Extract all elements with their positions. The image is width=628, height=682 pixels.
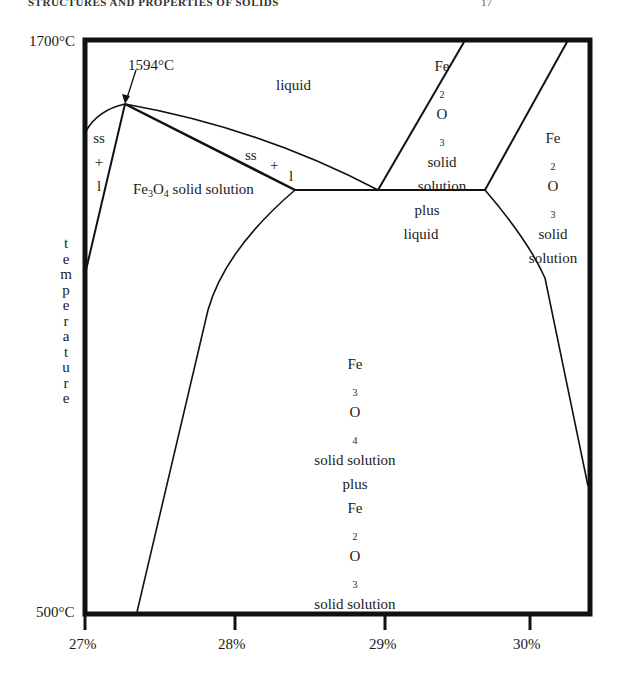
y-axis-title: te mp er at ur e <box>59 236 73 407</box>
x-tick-label-29: 29% <box>369 637 397 652</box>
y-axis-bottom-label: 500°C <box>36 605 75 620</box>
region-ss-plus-l-left: ss+l <box>91 126 107 198</box>
y-axis-top-label: 1700°C <box>29 34 75 49</box>
region-ss-label-mid: ss <box>245 148 257 163</box>
region-fe3o4-solid-solution: Fe3O4 solid solution <box>133 182 254 197</box>
region-fe2o3-solid-solution: Fe2O3 solid solution <box>518 126 588 270</box>
region-plus-label-mid: + <box>270 158 278 173</box>
peak-temperature-label: 1594°C <box>128 58 174 73</box>
region-fe2o3-ss-plus-liquid: Fe2O3 solid solution plus liquid <box>392 54 492 246</box>
region-two-phase-solid: Fe3O4 solid solution plus Fe2O3 solid so… <box>270 352 440 616</box>
region-liquid: liquid <box>276 78 311 93</box>
peak-arrow-head <box>122 94 130 104</box>
peak-arrow-shaft <box>127 70 136 98</box>
x-tick-label-30: 30% <box>513 637 541 652</box>
x-tick-label-27: 27% <box>69 637 97 652</box>
x-tick-label-28: 28% <box>218 637 246 652</box>
region-l-label-mid: l <box>289 169 293 184</box>
solidus-right <box>125 104 295 190</box>
